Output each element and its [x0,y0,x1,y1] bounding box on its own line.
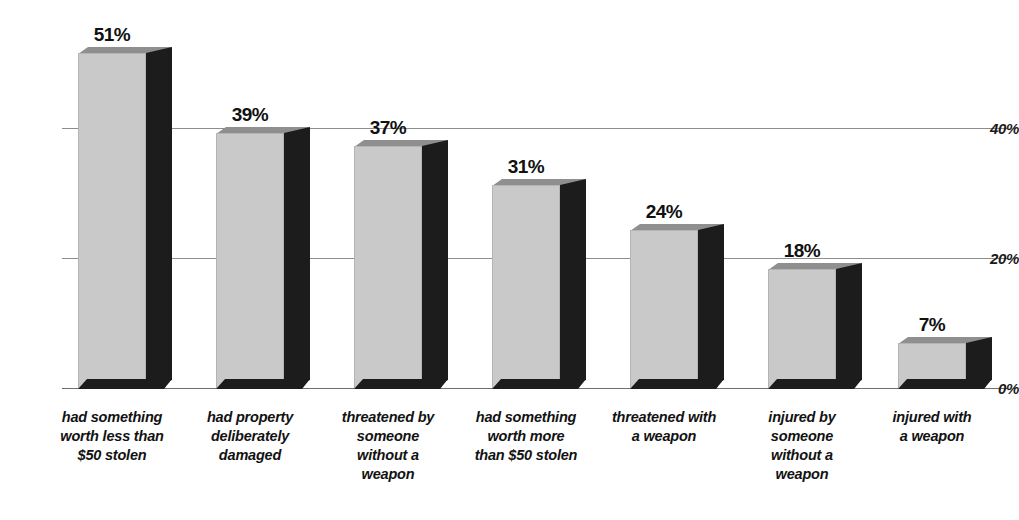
bar-front-face-1[interactable] [78,53,146,389]
category-label-7-line-2: a weapon [848,427,1016,446]
bar-group-4[interactable] [492,179,586,389]
bar-group-6[interactable] [768,263,862,389]
bar-bottom-face-3 [354,379,448,389]
category-label-3-line-4: weapon [304,465,472,484]
bar-value-label-3: 37% [354,117,422,139]
bar-group-2[interactable] [216,127,310,389]
bar-bottom-face-2 [216,379,310,389]
bar-value-label-1: 51% [78,24,146,46]
gridline-40 [62,128,1007,129]
bar-side-face-3 [422,140,448,389]
bar-value-label-7: 7% [898,314,966,336]
bar-bottom-face-6 [768,379,862,389]
bar-bottom-face-5 [630,379,724,389]
bar-value-label-6: 18% [768,240,836,262]
category-label-6-line-3: without a [718,446,886,465]
category-label-4-line-3: than $50 stolen [442,446,610,465]
bar-value-label-4: 31% [492,156,560,178]
category-label-7: injured with a weapon [848,408,1016,446]
bar-front-face-4[interactable] [492,185,560,389]
bar-bottom-face-4 [492,379,586,389]
bar-side-face-1 [146,47,172,389]
bar-group-1[interactable] [78,47,172,389]
bar-front-face-3[interactable] [354,146,422,389]
bar-group-5[interactable] [630,224,724,389]
bar-bottom-face-1 [78,379,172,389]
plot-area: 40% 20% 0% 51% had something worth less … [0,0,1019,520]
bar-side-face-6 [836,263,862,389]
y-tick-label-40: 40% [963,120,1019,137]
y-tick-label-20: 20% [963,250,1019,267]
bar-front-face-6[interactable] [768,269,836,389]
bar-front-face-5[interactable] [630,230,698,389]
category-label-6-line-4: weapon [718,465,886,484]
category-label-7-line-1: injured with [848,408,1016,427]
bar-side-face-5 [698,224,724,389]
bar-front-face-2[interactable] [216,133,284,389]
bar-group-3[interactable] [354,140,448,389]
bar-group-7[interactable] [898,337,992,389]
bar-value-label-2: 39% [216,104,284,126]
bar-side-face-2 [284,127,310,389]
chart-container: ........................ 40% 20% 0% 51% … [0,0,1019,520]
bar-value-label-5: 24% [630,201,698,223]
bar-bottom-face-7 [898,379,992,389]
bar-side-face-4 [560,179,586,389]
